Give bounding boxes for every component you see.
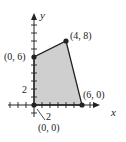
label-vertex-4-8: (4, 8) <box>70 30 92 42</box>
x-axis-label: x <box>110 106 116 118</box>
vertex-0-0 <box>31 102 36 107</box>
y-tick-label-2: 2 <box>22 84 27 95</box>
x-axis-arrow-icon <box>93 102 100 108</box>
y-axis-arrow-icon <box>31 13 37 20</box>
vertex-4-8 <box>63 38 68 43</box>
diagram-canvas: y x 2 2 (0, 6) (4, 8) (6, 0) (0, 0) <box>0 0 126 142</box>
label-vertex-6-0: (6, 0) <box>83 89 105 101</box>
feasible-region <box>34 41 82 105</box>
label-vertex-0-6: (0, 6) <box>4 51 26 63</box>
vertex-6-0 <box>79 102 84 107</box>
x-tick-label-2: 2 <box>46 111 51 122</box>
origin-leader-line <box>37 109 45 120</box>
y-axis-label: y <box>39 9 45 21</box>
vertex-0-6 <box>31 54 36 59</box>
label-vertex-0-0: (0, 0) <box>38 122 60 134</box>
